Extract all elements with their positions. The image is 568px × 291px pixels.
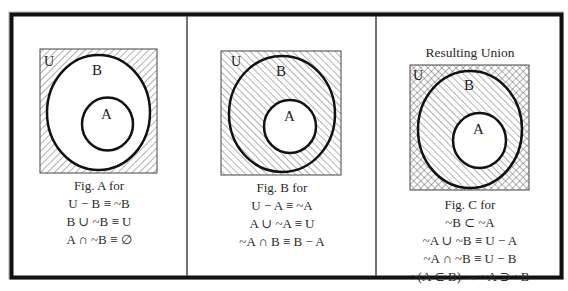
set-a-label: A	[284, 108, 295, 124]
set-b-label: B	[464, 77, 474, 93]
caption-line: U − B ≡ ~B	[38, 195, 160, 213]
figure-c: Resulting Union U B A	[410, 45, 529, 190]
caption-line: Fig. B for	[221, 179, 343, 197]
caption-line: B ∪ ~B ≡ U	[38, 213, 160, 231]
caption-line: Fig. A for	[38, 177, 160, 195]
caption-line: ~(A ⊂ B) → ~A ⊃ ~B	[395, 268, 545, 286]
set-b-label: B	[276, 63, 286, 79]
caption-line: Fig. C for	[395, 196, 545, 214]
caption-line: ~A ∩ B ≡ B − A	[221, 233, 343, 251]
set-a-label: A	[101, 106, 112, 122]
set-b-label: B	[92, 62, 102, 78]
caption-line: U − A ≡ ~A	[221, 197, 343, 215]
universe-label: U	[413, 68, 423, 83]
caption-line: ~A ∪ ~B ≡ U − A	[395, 232, 545, 250]
caption-line: A ∪ ~A ≡ U	[221, 215, 343, 233]
set-a-label: A	[473, 121, 484, 137]
figure-title: Resulting Union	[426, 45, 515, 60]
figure-a: U B A	[40, 49, 157, 173]
figure-b: U B A	[221, 51, 341, 175]
caption-fig-c: Fig. C for ~B ⊂ ~A ~A ∪ ~B ≡ U − A ~A ∩ …	[395, 196, 545, 286]
caption-line: A ∩ ~B ≡ ∅	[38, 231, 160, 249]
caption-line: ~A ∩ ~B ≡ U − B	[395, 250, 545, 268]
caption-fig-a: Fig. A for U − B ≡ ~B B ∪ ~B ≡ U A ∩ ~B …	[38, 177, 160, 249]
caption-fig-b: Fig. B for U − A ≡ ~A A ∪ ~A ≡ U ~A ∩ B …	[221, 179, 343, 251]
universe-label: U	[231, 54, 241, 69]
caption-line: ~B ⊂ ~A	[395, 214, 545, 232]
universe-label: U	[44, 54, 54, 69]
